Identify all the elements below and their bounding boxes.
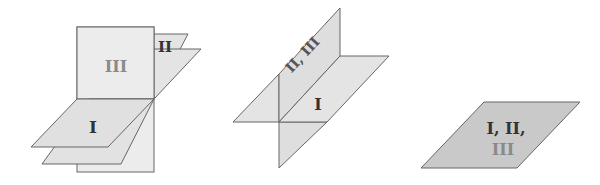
plane-ii-iii-lower [279,122,327,168]
planes-diagram: III II I II, III I I, II, III [0,0,600,185]
label-plane-i: I [314,95,321,114]
label-line-1: I, II, [486,119,525,138]
figure-2: II, III I [233,8,389,168]
figure-3: I, II, III [421,102,580,168]
label-plane-ii: II [158,38,172,56]
plane-i-left [233,74,279,122]
label-line-2: III [492,140,514,159]
label-plane-iii: III [105,57,127,76]
label-plane-i: I [89,117,97,137]
plane-i-upper [154,49,201,99]
figure-1: III II I [31,27,201,172]
